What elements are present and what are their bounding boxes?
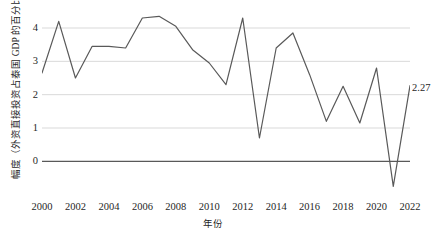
plot-area (42, 8, 410, 198)
y-tick-label: 3 (16, 56, 38, 66)
chart-plot-svg (42, 8, 410, 198)
y-tick-label: 0 (16, 156, 38, 166)
y-tick-label: 2 (16, 90, 38, 100)
y-tick-label: 4 (16, 23, 38, 33)
x-axis-title: 年份 (0, 216, 425, 230)
y-axis-tick-labels: 01234 (14, 8, 38, 198)
x-tick-label: 2022 (389, 200, 431, 214)
x-axis-tick-labels: 2000200220042006200820102012201420162018… (42, 200, 410, 216)
y-tick-label: 1 (16, 123, 38, 133)
end-point-data-label: 2.27 (412, 82, 430, 94)
